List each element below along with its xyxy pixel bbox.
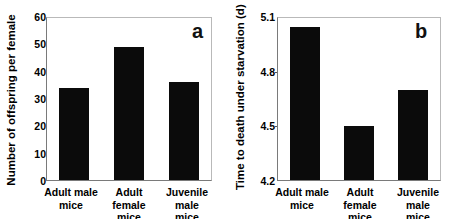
bar — [114, 47, 144, 180]
x-axis-tick-labels-panel-b: Adult malemiceAdult femalemiceJuvenile m… — [273, 186, 447, 219]
y-tick-label: 40 — [34, 66, 46, 78]
panel-b: Time to death under starvation (d) 4.24.… — [229, 0, 458, 219]
y-tick-label: 4.5 — [260, 120, 275, 132]
bar — [59, 88, 89, 180]
x-tick-label: Juvenile malemice — [389, 186, 447, 219]
x-tick-label: Adult femalemice — [331, 186, 389, 219]
bar-series-panel-a — [47, 18, 211, 180]
y-tick-label: 60 — [34, 11, 46, 23]
bar — [290, 27, 320, 180]
y-tick-label: 20 — [34, 120, 46, 132]
x-tick-label: Juvenile malemice — [158, 186, 216, 219]
bar — [344, 126, 374, 180]
panel-letter-b: b — [415, 20, 427, 43]
panel-letter-a: a — [192, 20, 203, 43]
figure-two-panel-bar-charts: Number of offspring per female 010203040… — [0, 0, 458, 219]
x-tick-label: Adult femalemice — [100, 186, 158, 219]
y-tick-label: 4.8 — [260, 66, 275, 78]
x-tick-label: Adult malemice — [42, 186, 100, 219]
x-axis-tick-labels-panel-a: Adult malemiceAdult femalemiceJuvenile m… — [42, 186, 216, 219]
y-axis-title-panel-a: Number of offspring per female — [2, 10, 20, 190]
y-axis-title-panel-b: Time to death under starvation (d) — [231, 10, 249, 190]
panel-a: Number of offspring per female 010203040… — [0, 0, 229, 219]
bar — [169, 82, 199, 180]
bar — [398, 90, 428, 180]
y-axis-tick-labels-panel-b: 4.24.54.85.1 — [249, 0, 275, 219]
y-tick-label: 5.1 — [260, 11, 275, 23]
x-tick-label: Adult malemice — [273, 186, 331, 219]
y-tick-label: 30 — [34, 93, 46, 105]
plot-area-panel-a — [46, 17, 212, 181]
y-tick-label: 10 — [34, 148, 46, 160]
y-tick-label: 50 — [34, 38, 46, 50]
